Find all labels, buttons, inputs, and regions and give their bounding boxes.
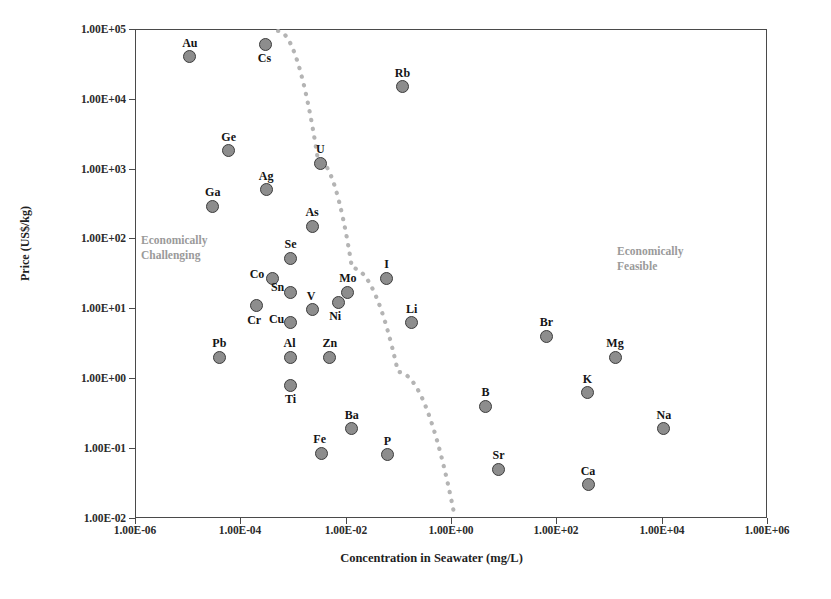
annotation-economically-feasible: Economically Feasible	[617, 244, 683, 273]
data-point-cr[interactable]	[250, 299, 263, 312]
data-point-v[interactable]	[306, 303, 319, 316]
data-point-pb[interactable]	[213, 351, 226, 364]
data-point-ag[interactable]	[260, 183, 273, 196]
data-point-al[interactable]	[284, 351, 297, 364]
data-point-fe[interactable]	[315, 447, 328, 460]
data-point-sn[interactable]	[284, 286, 297, 299]
data-point-cs[interactable]	[259, 38, 272, 51]
data-point-sr[interactable]	[492, 463, 505, 476]
data-point-br[interactable]	[540, 330, 553, 343]
figure-root: 1.00E+05 1.00E+04 1.00E+03 1.00E+02 1.00…	[0, 0, 831, 599]
data-point-mg[interactable]	[609, 351, 622, 364]
feasibility-boundary	[0, 0, 831, 599]
data-point-ti[interactable]	[284, 379, 297, 392]
data-point-rb[interactable]	[396, 80, 409, 93]
data-point-ga[interactable]	[206, 200, 219, 213]
annotation-economically-challenging: Economically Challenging	[141, 233, 207, 262]
data-point-b[interactable]	[479, 400, 492, 413]
data-point-ni[interactable]	[332, 296, 345, 309]
data-point-se[interactable]	[284, 252, 297, 265]
data-point-u[interactable]	[314, 157, 327, 170]
data-point-zn[interactable]	[323, 351, 336, 364]
data-point-as[interactable]	[306, 220, 319, 233]
data-point-co[interactable]	[266, 272, 279, 285]
data-point-ca[interactable]	[582, 478, 595, 491]
data-point-i[interactable]	[380, 272, 393, 285]
